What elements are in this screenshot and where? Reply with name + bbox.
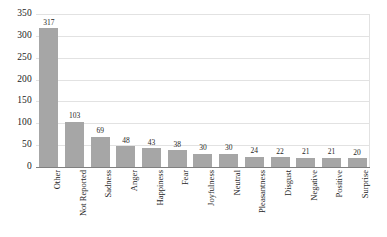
x-label-slot: Joyfulness bbox=[190, 170, 216, 237]
x-axis-category-label: Anger bbox=[129, 170, 138, 191]
bar-slot: 103 bbox=[62, 14, 88, 167]
bar[interactable] bbox=[271, 157, 290, 167]
x-label-slot: Neutral bbox=[216, 170, 242, 237]
bar-slot: 24 bbox=[242, 14, 268, 167]
x-label-slot: Not Reported bbox=[62, 170, 88, 237]
x-axis-category-label: Not Reported bbox=[78, 170, 87, 216]
bar[interactable] bbox=[142, 148, 161, 167]
bar[interactable] bbox=[296, 158, 315, 167]
bar-chart: 3171036948433830302422212120 05010015020… bbox=[0, 0, 387, 237]
bar-slot: 69 bbox=[87, 14, 113, 167]
bar-slot: 20 bbox=[344, 14, 370, 167]
x-axis-category-label: Negative bbox=[309, 170, 318, 201]
x-label-slot: Positive bbox=[319, 170, 345, 237]
x-axis-baseline bbox=[36, 167, 370, 168]
y-axis-tick-label: 250 bbox=[2, 53, 32, 63]
plot-area: 3171036948433830302422212120 bbox=[36, 14, 370, 167]
x-axis-category-label: Happiness bbox=[155, 170, 164, 205]
x-axis-category-label: Disgust bbox=[284, 170, 293, 196]
bar[interactable] bbox=[168, 150, 187, 167]
bar-slot: 21 bbox=[293, 14, 319, 167]
bar[interactable] bbox=[219, 154, 238, 167]
bar[interactable] bbox=[39, 28, 58, 167]
x-label-slot: Disgust bbox=[267, 170, 293, 237]
x-label-slot: Happiness bbox=[139, 170, 165, 237]
x-label-slot: Sadness bbox=[87, 170, 113, 237]
bar-slot: 22 bbox=[267, 14, 293, 167]
x-axis-category-labels: OtherNot ReportedSadnessAngerHappinessFe… bbox=[36, 170, 370, 237]
y-axis-tick-label: 150 bbox=[2, 96, 32, 106]
bar[interactable] bbox=[348, 158, 367, 167]
y-axis-tick-label: 100 bbox=[2, 118, 32, 128]
x-axis-category-label: Positive bbox=[335, 170, 344, 197]
bar[interactable] bbox=[116, 146, 135, 167]
bar-slot: 317 bbox=[36, 14, 62, 167]
bar[interactable] bbox=[322, 158, 341, 167]
y-axis-tick-label: 0 bbox=[2, 162, 32, 172]
x-label-slot: Surprise bbox=[344, 170, 370, 237]
x-axis-category-label: Joyfulness bbox=[206, 170, 215, 206]
x-label-slot: Pleasantness bbox=[242, 170, 268, 237]
x-axis-category-label: Fear bbox=[181, 170, 190, 185]
x-axis-category-label: Sadness bbox=[104, 170, 113, 197]
bar-value-label: 20 bbox=[337, 149, 377, 157]
bar-slot: 21 bbox=[319, 14, 345, 167]
y-axis-tick-label: 350 bbox=[2, 9, 32, 19]
bar[interactable] bbox=[193, 154, 212, 167]
x-label-slot: Other bbox=[36, 170, 62, 237]
y-axis-tick-label: 300 bbox=[2, 31, 32, 41]
y-axis-tick-label: 200 bbox=[2, 75, 32, 85]
x-axis-category-label: Pleasantness bbox=[258, 170, 267, 213]
x-axis-category-label: Neutral bbox=[232, 170, 241, 196]
x-axis-category-label: Other bbox=[52, 170, 61, 189]
bar-slot: 30 bbox=[216, 14, 242, 167]
x-axis-category-label: Surprise bbox=[361, 170, 370, 198]
bar[interactable] bbox=[245, 157, 264, 167]
x-label-slot: Anger bbox=[113, 170, 139, 237]
x-label-slot: Fear bbox=[164, 170, 190, 237]
bar-series: 3171036948433830302422212120 bbox=[36, 14, 370, 167]
y-axis-tick-label: 50 bbox=[2, 140, 32, 150]
x-label-slot: Negative bbox=[293, 170, 319, 237]
